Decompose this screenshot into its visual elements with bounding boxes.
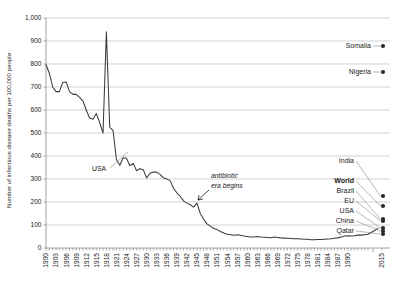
x-tick-label: 1948 [203, 253, 210, 268]
x-tick-label: 1909 [73, 253, 80, 268]
y-tick-label: 100 [30, 221, 41, 228]
endpoint-label-somalia: Somalia [346, 42, 371, 49]
y-tick-label: 300 [30, 175, 41, 182]
y-tick-label: 900 [30, 37, 41, 44]
x-tick-label: 1984 [324, 253, 331, 268]
annotation-usa-label: USA [92, 165, 106, 172]
y-tick-label: 200 [30, 198, 41, 205]
y-tick-label: 500 [30, 129, 41, 136]
chart-background [0, 0, 402, 282]
y-axis-label: Number of infectious disease deaths per … [5, 52, 12, 208]
x-tick-label: 1978 [304, 253, 311, 268]
x-tick-label: 1945 [193, 253, 200, 268]
endpoint-dot-qatar[interactable] [381, 232, 385, 236]
x-tick-label: 1906 [63, 253, 70, 268]
endpoint-dot-somalia[interactable] [381, 44, 385, 48]
x-tick-label: 1957 [234, 253, 241, 268]
x-tick-label: 1975 [294, 253, 301, 268]
x-tick-label: 1972 [284, 253, 291, 268]
x-tick-label: 1954 [224, 253, 231, 268]
x-tick-label: 1900 [42, 253, 49, 268]
x-tick-label: 1969 [274, 253, 281, 268]
x-tick-label: 1942 [183, 253, 190, 268]
annotation-antibiotic-line2: era begins [211, 182, 243, 190]
endpoint-label-india: India [339, 157, 354, 164]
x-tick-label: 1930 [143, 253, 150, 268]
x-tick-label: 1981 [314, 253, 321, 268]
y-tick-label: 700 [30, 83, 41, 90]
endpoint-label-qatar: Qatar [336, 227, 354, 235]
x-tick-label: 1924 [123, 253, 130, 268]
y-tick-label: 800 [30, 60, 41, 67]
x-tick-label: 1927 [133, 253, 140, 268]
annotation-antibiotic-line1: antibiotic [211, 172, 238, 179]
x-tick-label: 1960 [244, 253, 251, 268]
x-tick-labels-group: 1900190319061909191219151918192119241927… [42, 253, 385, 268]
x-tick-label: 1987 [334, 253, 341, 268]
x-tick-label: 1903 [52, 253, 59, 268]
x-tick-label: 1951 [213, 253, 220, 268]
y-tick-label: 0 [38, 244, 42, 251]
y-tick-label: 1,000 [25, 14, 42, 21]
x-tick-label: 1936 [163, 253, 170, 268]
endpoint-label-eu: EU [344, 197, 354, 204]
chart-svg: 01002003004005006007008009001,000 190019… [0, 0, 402, 282]
y-tick-label: 600 [30, 106, 41, 113]
x-tick-label: 1963 [254, 253, 261, 268]
x-tick-label: 1990 [344, 253, 351, 268]
x-tick-label: 1933 [153, 253, 160, 268]
x-tick-label: 2015 [378, 253, 385, 268]
x-tick-label: 1921 [113, 253, 120, 268]
x-tick-label: 1912 [83, 253, 90, 268]
x-tick-label: 1918 [103, 253, 110, 268]
infectious-disease-deaths-chart: 01002003004005006007008009001,000 190019… [0, 0, 402, 282]
endpoint-label-world: World [334, 177, 354, 184]
endpoint-label-nigeria: Nigeria [349, 68, 371, 76]
endpoint-label-china: China [336, 217, 354, 224]
endpoint-dot-world[interactable] [381, 204, 385, 208]
endpoint-dot-eu[interactable] [381, 219, 385, 223]
endpoint-label-brazil: Brazil [336, 187, 354, 194]
x-tick-label: 1966 [264, 253, 271, 268]
y-tick-label: 400 [30, 152, 41, 159]
x-tick-label: 1915 [93, 253, 100, 268]
x-tick-label: 1939 [173, 253, 180, 268]
endpoint-label-usa: USA [340, 207, 355, 214]
endpoint-dot-nigeria[interactable] [381, 70, 385, 74]
endpoint-dot-india[interactable] [381, 194, 385, 198]
